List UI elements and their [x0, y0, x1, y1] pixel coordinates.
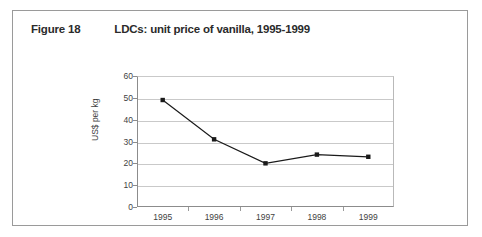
y-tick-label: 10	[99, 181, 133, 190]
series-line	[163, 100, 369, 163]
x-tick-label: 1997	[256, 213, 275, 222]
x-tick-mark	[188, 207, 189, 211]
x-tick-mark	[240, 207, 241, 211]
figure-number: Figure 18	[31, 23, 80, 35]
x-tick-label: 1998	[307, 213, 326, 222]
data-point-marker	[366, 155, 370, 159]
y-axis-ticks: 0102030405060	[99, 76, 133, 207]
x-tick-label: 1996	[205, 213, 224, 222]
figure-caption: Figure 18 LDCs: unit price of vanilla, 1…	[31, 23, 310, 35]
data-point-marker	[315, 152, 319, 156]
figure-frame: Figure 18 LDCs: unit price of vanilla, 1…	[12, 10, 468, 226]
x-tick-mark	[291, 207, 292, 211]
x-tick-label: 1995	[153, 213, 172, 222]
y-tick-label: 40	[99, 115, 133, 124]
x-tick-label: 1999	[359, 213, 378, 222]
y-tick-label: 20	[99, 159, 133, 168]
line-chart: US$ per kg 0102030405060 199519961997199…	[99, 67, 419, 217]
y-tick-label: 60	[99, 72, 133, 81]
data-point-marker	[212, 137, 216, 141]
data-point-marker	[161, 98, 165, 102]
x-tick-mark	[343, 207, 344, 211]
x-axis-labels: 19951996199719981999	[137, 213, 394, 225]
data-point-marker	[263, 161, 267, 165]
y-tick-label: 0	[99, 203, 133, 212]
series-vanilla-price	[137, 76, 394, 207]
y-tick-label: 30	[99, 137, 133, 146]
figure-title: LDCs: unit price of vanilla, 1995-1999	[114, 23, 310, 35]
y-tick-label: 50	[99, 94, 133, 103]
